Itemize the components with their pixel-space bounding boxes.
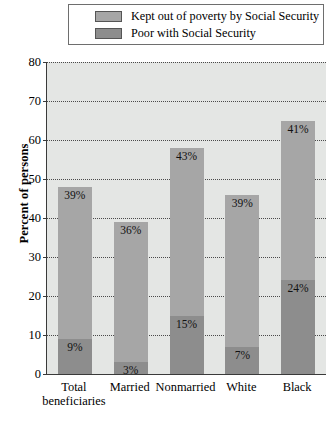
y-tick-mark-60 bbox=[43, 140, 47, 141]
y-tick-mark-50 bbox=[43, 179, 47, 180]
bar-segment-kept-out-of-poverty[interactable]: 36% bbox=[114, 222, 148, 362]
bar-value-label: 36% bbox=[114, 224, 148, 236]
y-tick-mark-30 bbox=[43, 257, 47, 258]
y-tick-mark-0 bbox=[43, 374, 47, 375]
legend-label-kept-out-of-poverty: Kept out of poverty by Social Security bbox=[131, 10, 319, 23]
y-tick-mark-40 bbox=[43, 218, 47, 219]
bar-segment-poor-with-social-security[interactable]: 7% bbox=[225, 347, 259, 374]
bar-segment-poor-with-social-security[interactable]: 24% bbox=[281, 280, 315, 374]
legend-item-poor-with-social-security: Poor with Social Security bbox=[95, 25, 323, 42]
y-tick-label-40: 40 bbox=[7, 211, 41, 226]
gridline-80 bbox=[47, 62, 326, 63]
bar-value-label: 39% bbox=[225, 197, 259, 209]
y-tick-label-10: 10 bbox=[7, 328, 41, 343]
y-tick-label-50: 50 bbox=[7, 172, 41, 187]
x-axis-label: Black bbox=[254, 380, 336, 394]
y-tick-label-70: 70 bbox=[7, 94, 41, 109]
bar-segment-kept-out-of-poverty[interactable]: 43% bbox=[170, 148, 204, 316]
legend-item-kept-out-of-poverty: Kept out of poverty by Social Security bbox=[95, 8, 323, 25]
bar-segment-poor-with-social-security[interactable]: 9% bbox=[58, 339, 92, 374]
bar-value-label: 24% bbox=[281, 282, 315, 294]
bar-value-label: 7% bbox=[225, 349, 259, 361]
y-tick-label-60: 60 bbox=[7, 133, 41, 148]
bar-segment-poor-with-social-security[interactable]: 3% bbox=[114, 362, 148, 374]
chart-legend: Kept out of poverty by Social Security P… bbox=[68, 4, 324, 45]
bar-value-label: 41% bbox=[281, 123, 315, 135]
chart-figure: Kept out of poverty by Social Security P… bbox=[0, 0, 336, 425]
x-axis-label-line: Black bbox=[254, 380, 336, 394]
bar-value-label: 3% bbox=[114, 364, 148, 376]
bar-value-label: 43% bbox=[170, 150, 204, 162]
legend-swatch-kept-out-of-poverty bbox=[95, 11, 122, 22]
bar-value-label: 9% bbox=[58, 341, 92, 353]
bar-value-label: 39% bbox=[58, 189, 92, 201]
bar-segment-kept-out-of-poverty[interactable]: 41% bbox=[281, 121, 315, 281]
y-tick-label-20: 20 bbox=[7, 289, 41, 304]
gridline-70 bbox=[47, 101, 326, 102]
bar-segment-kept-out-of-poverty[interactable]: 39% bbox=[58, 187, 92, 339]
y-tick-mark-70 bbox=[43, 101, 47, 102]
legend-label-poor-with-social-security: Poor with Social Security bbox=[131, 27, 256, 40]
y-tick-label-30: 30 bbox=[7, 250, 41, 265]
plot-area: 01020304050607080 39%9%36%3%43%15%39%7%4… bbox=[46, 62, 326, 375]
y-tick-label-80: 80 bbox=[7, 55, 41, 70]
bar-segment-kept-out-of-poverty[interactable]: 39% bbox=[225, 195, 259, 347]
y-tick-mark-20 bbox=[43, 296, 47, 297]
legend-swatch-poor-with-social-security bbox=[95, 28, 122, 39]
x-axis-label-line: beneficiaries bbox=[31, 394, 117, 408]
bar-segment-poor-with-social-security[interactable]: 15% bbox=[170, 316, 204, 375]
bar-value-label: 15% bbox=[170, 318, 204, 330]
y-tick-mark-80 bbox=[43, 62, 47, 63]
y-tick-mark-10 bbox=[43, 335, 47, 336]
